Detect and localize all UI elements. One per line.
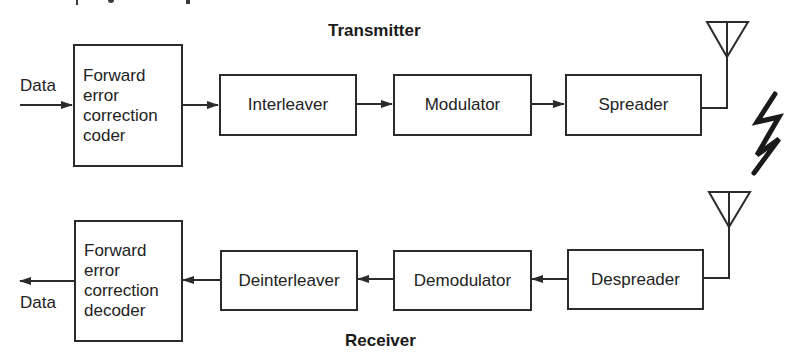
fec-decoder-line-4: decoder xyxy=(84,301,159,321)
demodulator-block: Demodulator xyxy=(393,250,532,311)
spreader-label: Spreader xyxy=(599,95,669,115)
deinterleaver-block: Deinterleaver xyxy=(220,250,358,311)
lightning-bolt-icon xyxy=(754,94,779,173)
fec-coder-line-3: correction xyxy=(83,106,158,126)
fec-decoder-line-3: correction xyxy=(84,281,159,301)
fec-coder-line-2: error xyxy=(83,86,158,106)
fec-decoder-line-1: Forward xyxy=(84,241,159,261)
receive-antenna-icon xyxy=(709,192,750,227)
antenna-to-despreader-line xyxy=(703,227,729,278)
modulator-label: Modulator xyxy=(425,95,501,115)
clipped-text-fragment xyxy=(186,0,190,4)
spreader-to-antenna-line xyxy=(701,57,727,108)
fec-coder-line-4: coder xyxy=(83,126,158,146)
transmitter-title: Transmitter xyxy=(328,21,421,41)
deinterleaver-label: Deinterleaver xyxy=(238,271,339,291)
interleaver-block: Interleaver xyxy=(219,74,357,136)
fec-coder-block: Forward error correction coder xyxy=(73,44,183,167)
despreader-label: Despreader xyxy=(591,270,680,290)
transmit-antenna-icon xyxy=(707,22,748,57)
despreader-block: Despreader xyxy=(567,249,704,310)
data-input-label: Data xyxy=(20,76,56,96)
fec-decoder-line-2: error xyxy=(84,261,159,281)
demodulator-label: Demodulator xyxy=(414,271,511,291)
interleaver-label: Interleaver xyxy=(248,95,328,115)
modulator-block: Modulator xyxy=(393,74,532,136)
spreader-block: Spreader xyxy=(565,74,702,136)
clipped-text-fragment xyxy=(76,0,78,5)
fec-decoder-block: Forward error correction decoder xyxy=(74,220,183,342)
receiver-title: Receiver xyxy=(345,331,416,351)
fec-coder-line-1: Forward xyxy=(83,66,158,86)
data-output-label: Data xyxy=(20,293,56,313)
